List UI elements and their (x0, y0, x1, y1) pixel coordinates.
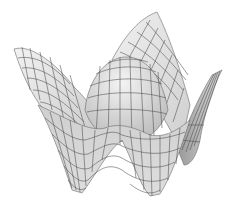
surface-plot (0, 0, 233, 211)
